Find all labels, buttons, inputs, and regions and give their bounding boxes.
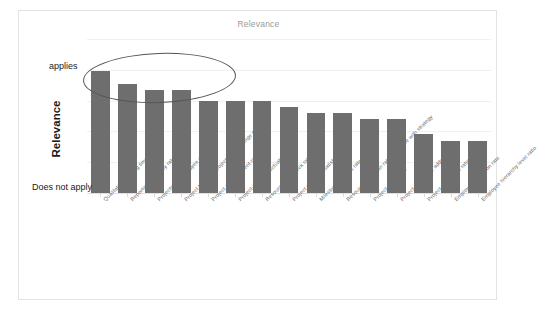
x-axis-tick (478, 193, 479, 197)
bar (91, 71, 110, 193)
chart-frame: Relevance applies Does not apply Relevan… (18, 10, 497, 300)
x-axis-tick (289, 193, 290, 197)
x-axis-tick (451, 193, 452, 197)
x-axis-tick (100, 193, 101, 197)
x-axis-tick (235, 193, 236, 197)
x-axis-tick (127, 193, 128, 197)
x-axis-tick (154, 193, 155, 197)
x-axis-labels: Qualitative meeting time rateReporting e… (87, 198, 491, 308)
x-axis-tick (316, 193, 317, 197)
x-axis-tick (370, 193, 371, 197)
y-axis-top-label: applies (49, 61, 78, 71)
x-axis-tick (262, 193, 263, 197)
y-axis-bottom-label: Does not apply (32, 182, 92, 192)
x-axis-tick (424, 193, 425, 197)
chart-title: Relevance (19, 19, 498, 29)
x-axis-tick (397, 193, 398, 197)
x-axis-tick (343, 193, 344, 197)
y-axis-title: Relevance (50, 84, 62, 174)
x-axis-tick (208, 193, 209, 197)
x-axis-tick (181, 193, 182, 197)
